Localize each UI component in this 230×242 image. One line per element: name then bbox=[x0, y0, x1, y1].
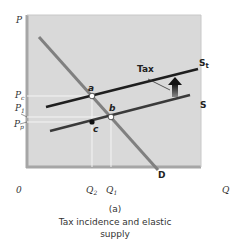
point-c-label: c bbox=[93, 124, 99, 134]
panel-label: (a) bbox=[0, 203, 230, 215]
caption-line-1: Tax incidence and elastic bbox=[0, 216, 230, 228]
point-b-label: b bbox=[109, 103, 116, 113]
q2-tick-label: Q2 bbox=[86, 185, 97, 196]
quantity-axis-label: Q bbox=[222, 185, 230, 195]
pc-tick-label: Pc bbox=[14, 90, 25, 101]
origin-label: 0 bbox=[16, 185, 22, 195]
point-a bbox=[89, 93, 95, 99]
price-axis-label: P bbox=[15, 15, 23, 25]
supply-label: S bbox=[200, 100, 206, 110]
q1-tick-label: Q1 bbox=[106, 185, 117, 196]
pp-tick-label: Pp bbox=[13, 119, 24, 131]
point-a-label: a bbox=[88, 83, 94, 93]
p1-tick-label: P1 bbox=[14, 103, 25, 114]
caption-line-2: supply bbox=[0, 228, 230, 240]
tax-label: Tax bbox=[137, 64, 154, 74]
demand-label: D bbox=[158, 170, 165, 180]
point-b bbox=[108, 114, 114, 120]
